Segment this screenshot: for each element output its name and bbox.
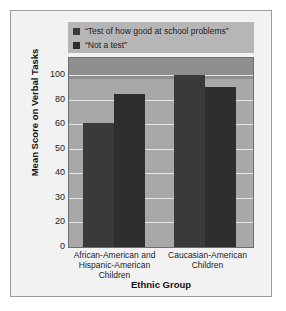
bar-group2-series2 (205, 87, 236, 247)
legend-item-test: “Test of how good at school problems” (73, 25, 249, 38)
legend-label-test: “Test of how good at school problems” (85, 27, 229, 36)
y-tick-label-40: 40 (39, 168, 65, 177)
plot-area (68, 57, 254, 248)
x-category-2-line2: Children (161, 260, 254, 270)
bar-group1-series2 (114, 94, 145, 247)
bar-group-2 (174, 58, 236, 247)
y-tick-label-80: 80 (39, 95, 65, 104)
y-tick-label-0: 0 (39, 242, 65, 251)
y-tick-label-30: 30 (39, 193, 65, 202)
y-tick-label-100: 100 (39, 70, 65, 79)
bar-group2-series1 (174, 75, 205, 247)
y-axis-ticks: 1008060504030200 (37, 57, 65, 248)
bar-group1-series1 (83, 123, 114, 247)
y-tick-label-60: 60 (39, 119, 65, 128)
x-category-1-line2: Hispanic-American (68, 260, 161, 270)
legend-swatch-not-a-test (73, 42, 80, 49)
x-category-2: Caucasian-American Children (161, 250, 254, 280)
x-axis-categories: African-American and Hispanic-American C… (68, 250, 254, 280)
x-category-1: African-American and Hispanic-American C… (68, 250, 161, 280)
chart-legend: “Test of how good at school problems” “N… (68, 22, 254, 53)
y-tick-label-20: 20 (39, 217, 65, 226)
chart-figure: “Test of how good at school problems” “N… (10, 10, 272, 297)
y-tick-label-50: 50 (39, 144, 65, 153)
legend-item-not-a-test: “Not a test” (73, 39, 249, 52)
legend-label-not-a-test: “Not a test” (85, 41, 127, 50)
legend-swatch-test (73, 28, 80, 35)
bar-group-1 (83, 58, 145, 247)
x-category-2-line1: Caucasian-American (161, 250, 254, 260)
x-axis-title: Ethnic Group (68, 279, 254, 290)
bars-layer (69, 58, 253, 247)
x-category-1-line1: African-American and (68, 250, 161, 260)
